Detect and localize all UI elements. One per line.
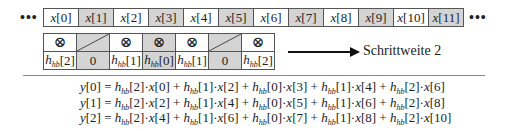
skipped-cell (76, 33, 110, 52)
sample-index: [10] (403, 10, 425, 26)
sample-index: [5] (231, 10, 246, 26)
sample-index: [1] (91, 10, 106, 26)
input-sample-cell: x[1] (78, 8, 114, 27)
step-size-label: Schrittweite 2 (363, 43, 441, 59)
output-equation: y[0] = hhb[2]·x[0] + hhb[1]·x[2] + hhb[0… (80, 79, 445, 96)
multiplier-cell: ⊗ (43, 33, 77, 52)
multiplier-cell: ⊗ (175, 33, 209, 52)
input-sample-cell: x[6] (253, 8, 289, 27)
sample-index: [3] (161, 10, 176, 26)
leading-ellipsis: ••• (20, 13, 38, 23)
coefficient-index: [2] (258, 53, 273, 69)
coefficient-label: hhb (111, 52, 126, 69)
filter-tap-column: ⊗hhb[1] (175, 33, 209, 70)
multiplier-cell: ⊗ (109, 33, 143, 52)
coefficient-cell: hhb[1] (175, 51, 209, 70)
multiplier-cell: ⊗ (142, 33, 176, 52)
zero-cell: 0 (208, 51, 242, 70)
input-sample-cell: x[11] (428, 8, 464, 27)
coefficient-label: hhb (144, 52, 159, 69)
input-sample-cell: x[3] (148, 8, 184, 27)
sample-index: [2] (126, 10, 141, 26)
input-sample-row: x[0]x[1]x[2]x[3]x[4]x[5]x[6]x[7]x[8]x[9]… (44, 8, 464, 27)
separator-line (23, 75, 485, 76)
multiply-icon: ⊗ (252, 35, 265, 50)
coefficient-label: hhb (177, 52, 192, 69)
sample-index: [6] (266, 10, 281, 26)
input-sample-cell: x[2] (113, 8, 149, 27)
filter-coefficient-row: ⊗hhb[2]0⊗hhb[1]⊗hhb[0]⊗hhb[1]0⊗hhb[2] (44, 33, 275, 70)
multiplier-cell: ⊗ (241, 33, 275, 52)
coefficient-label: hhb (45, 52, 60, 69)
sample-index: [11] (438, 10, 459, 26)
sample-index: [8] (336, 10, 351, 26)
input-sample-cell: x[7] (288, 8, 324, 27)
input-sample-cell: x[10] (393, 8, 429, 27)
skipped-cell (208, 33, 242, 52)
input-sample-cell: x[4] (183, 8, 219, 27)
coefficient-cell: hhb[2] (241, 51, 275, 70)
diagonal-slash-icon (77, 34, 109, 51)
filter-tap-column: 0 (76, 33, 110, 70)
multiply-icon: ⊗ (120, 35, 133, 50)
coefficient-index: [1] (126, 53, 141, 69)
arrow-right-icon (350, 47, 360, 57)
sample-index: [0] (56, 10, 71, 26)
step-arrow-line (288, 51, 352, 53)
coefficient-index: [0] (159, 53, 174, 69)
sample-index: [7] (301, 10, 316, 26)
multiply-icon: ⊗ (153, 35, 166, 50)
coefficient-index: [2] (60, 53, 75, 69)
filter-tap-column: ⊗hhb[0] (142, 33, 176, 70)
sample-index: [9] (371, 10, 386, 26)
input-sample-cell: x[9] (358, 8, 394, 27)
output-equation: y[2] = hhb[2]·x[4] + hhb[1]·x[6] + hhb[0… (80, 110, 451, 127)
input-sample-cell: x[8] (323, 8, 359, 27)
coefficient-cell: hhb[0] (142, 51, 176, 70)
coefficient-cell: hhb[1] (109, 51, 143, 70)
diagonal-slash-icon (209, 34, 241, 51)
coefficient-label: hhb (243, 52, 258, 69)
input-sample-cell: x[5] (218, 8, 254, 27)
multiply-icon: ⊗ (54, 35, 67, 50)
filter-tap-column: ⊗hhb[2] (43, 33, 77, 70)
zero-cell: 0 (76, 51, 110, 70)
filter-tap-column: ⊗hhb[1] (109, 33, 143, 70)
multiply-icon: ⊗ (186, 35, 199, 50)
filter-tap-column: ⊗hhb[2] (241, 33, 275, 70)
input-sample-cell: x[0] (43, 8, 79, 27)
sample-index: [4] (196, 10, 211, 26)
trailing-ellipsis: ••• (469, 13, 487, 23)
coefficient-cell: hhb[2] (43, 51, 77, 70)
filter-tap-column: 0 (208, 33, 242, 70)
coefficient-index: [1] (192, 53, 207, 69)
